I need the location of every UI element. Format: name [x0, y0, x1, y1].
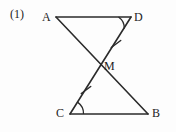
- segment-DC: [70, 17, 131, 114]
- point-label-D: D: [134, 11, 143, 23]
- point-label-A: A: [42, 11, 51, 23]
- geometry-figure: (1) A D M C B: [0, 0, 176, 132]
- segment-AB: [56, 17, 148, 114]
- angle-arc-D: [119, 17, 125, 29]
- point-label-C: C: [56, 107, 64, 119]
- point-label-B: B: [152, 107, 160, 119]
- angle-arc-C: [78, 102, 84, 114]
- item-number-label: (1): [10, 8, 24, 20]
- figure-canvas: [0, 0, 176, 132]
- point-label-M: M: [104, 60, 115, 72]
